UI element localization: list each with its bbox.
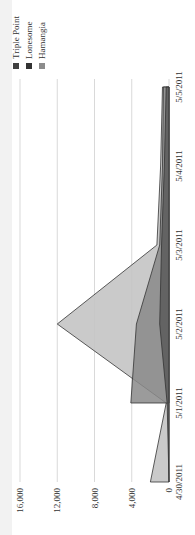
x-tick-label: 5/1/2011 — [174, 387, 184, 419]
legend: Triple PointLonesomeHamangia — [11, 16, 47, 69]
legend-swatch — [26, 63, 32, 69]
y-tick-label: 8,000 — [90, 488, 100, 509]
series-areas — [57, 87, 169, 482]
chart-stage: 04,0008,00012,00016,000 4/30/20115/1/201… — [0, 0, 195, 535]
x-tick-label: 4/30/2011 — [174, 464, 184, 500]
legend-label: Hamangia — [37, 22, 47, 59]
x-tick-label: 5/4/2011 — [174, 150, 184, 182]
y-axis-ticks: 04,0008,00012,00016,000 — [15, 488, 174, 513]
y-tick-label: 4,000 — [127, 488, 137, 509]
x-axis-ticks: 4/30/20115/1/20115/2/20115/3/20115/4/201… — [174, 71, 184, 500]
y-tick-label: 0 — [164, 488, 174, 493]
x-tick-label: 5/2/2011 — [174, 308, 184, 340]
x-tick-label: 5/3/2011 — [174, 229, 184, 261]
y-tick-label: 12,000 — [52, 488, 62, 513]
legend-label: Lonesome — [24, 22, 34, 60]
x-tick-label: 5/5/2011 — [174, 71, 184, 103]
area-chart: 04,0008,00012,00016,000 4/30/20115/1/201… — [0, 0, 195, 535]
legend-swatch — [13, 63, 19, 69]
y-tick-label: 16,000 — [15, 488, 25, 513]
legend-label: Triple Point — [11, 16, 21, 59]
legend-swatch — [39, 63, 45, 69]
